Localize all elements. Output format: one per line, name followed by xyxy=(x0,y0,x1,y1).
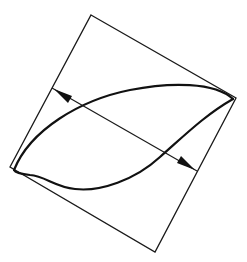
lens-lower-curve xyxy=(14,99,233,189)
rotated-square xyxy=(10,15,236,252)
diagram-canvas xyxy=(0,0,247,262)
dimension-line xyxy=(52,88,197,171)
arrowhead-start-icon xyxy=(54,89,72,103)
arrowhead-end-icon xyxy=(177,156,195,170)
